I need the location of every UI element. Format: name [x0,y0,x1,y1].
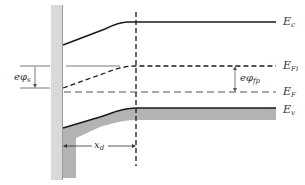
ephi-s-label: eφs [14,72,31,84]
efi-label: EFi [283,60,298,73]
ephi-s-arrowhead [33,84,37,88]
ephi-s-label-main: eφ [14,71,27,82]
oxide-layer [51,5,62,180]
ephi-s-label-sub: s [27,76,31,84]
ephi-fp-label: eφfp [240,73,260,85]
efi-label-sub: Fi [291,65,298,73]
ephi-fp-label-main: eφ [240,72,253,83]
band-diagram [0,0,305,185]
ec-label: Ec [283,16,295,29]
ev-label-sub: v [291,109,295,117]
xd-label-sub: d [100,144,104,152]
ephi-fp-arrowhead-bottom [233,88,237,92]
ec-label-sub: c [291,21,295,29]
ef-label-sub: F [291,91,296,99]
efi-label-main: E [283,59,291,72]
ephi-fp-label-sub: fp [253,77,260,85]
ef-label: EF [283,86,296,99]
conduction-band-edge [63,22,276,45]
ef-label-main: E [283,85,291,98]
ec-label-main: E [283,15,291,28]
ev-label-main: E [283,103,291,116]
xd-label: xd [94,140,104,152]
ev-label: Ev [283,104,295,117]
